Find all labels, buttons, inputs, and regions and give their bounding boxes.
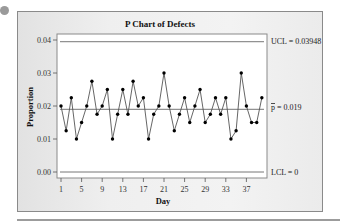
data-point (188, 121, 191, 124)
data-point (121, 88, 124, 91)
data-point (90, 80, 93, 83)
data-point (131, 80, 134, 83)
data-point (245, 104, 248, 107)
data-point (162, 71, 165, 74)
x-tick-label: 37 (242, 185, 250, 194)
data-point (142, 96, 145, 99)
plot-area (57, 34, 267, 178)
data-point (260, 96, 263, 99)
x-axis: 15913172125293337 (59, 178, 250, 194)
data-point (152, 113, 155, 116)
data-point (111, 137, 114, 140)
x-tick-label: 9 (100, 185, 104, 194)
x-tick-label: 33 (222, 185, 230, 194)
data-point (59, 104, 62, 107)
data-point (224, 96, 227, 99)
data-point (240, 71, 243, 74)
data-point (75, 137, 78, 140)
y-axis: 0.000.010.020.030.04 (37, 36, 57, 177)
data-point (178, 113, 181, 116)
x-tick-label: 25 (181, 185, 189, 194)
x-tick-label: 5 (80, 185, 84, 194)
data-point (204, 121, 207, 124)
data-point (250, 121, 253, 124)
x-tick-label: 29 (201, 185, 209, 194)
x-tick-label: 13 (119, 185, 127, 194)
data-point (70, 96, 73, 99)
data-point (101, 104, 104, 107)
center-line-label: p = 0.019 (271, 103, 302, 112)
y-tick-label: 0.02 (37, 102, 51, 111)
data-point (214, 96, 217, 99)
data-point (137, 104, 140, 107)
center-value: = 0.019 (275, 103, 302, 112)
data-point (95, 113, 98, 116)
data-point (85, 104, 88, 107)
data-point (219, 113, 222, 116)
data-point (80, 121, 83, 124)
data-point (64, 129, 67, 132)
x-tick-label: 1 (59, 185, 63, 194)
data-point (229, 137, 232, 140)
chart-title: P Chart of Defects (125, 19, 196, 29)
data-point (183, 96, 186, 99)
y-tick-label: 0.04 (37, 36, 51, 45)
data-point (147, 137, 150, 140)
y-tick-label: 0.00 (37, 168, 51, 177)
data-point (173, 129, 176, 132)
x-tick-label: 21 (160, 185, 168, 194)
data-point (209, 113, 212, 116)
data-point (167, 104, 170, 107)
data-point (106, 88, 109, 91)
x-axis-label: Day (156, 196, 171, 206)
data-point (157, 104, 160, 107)
data-point (193, 104, 196, 107)
y-tick-label: 0.01 (37, 135, 51, 144)
p-chart: P Chart of Defects 0.000.010.020.030.04 … (0, 0, 340, 222)
ucl-label: UCL = 0.03948 (271, 37, 321, 46)
data-point (198, 88, 201, 91)
data-point (234, 129, 237, 132)
data-point (116, 113, 119, 116)
lcl-label: LCL = 0 (271, 168, 298, 177)
y-axis-label: Proportion (25, 87, 35, 127)
data-point (255, 121, 258, 124)
x-tick-label: 17 (139, 185, 147, 194)
data-point (126, 113, 129, 116)
y-tick-label: 0.03 (37, 69, 51, 78)
